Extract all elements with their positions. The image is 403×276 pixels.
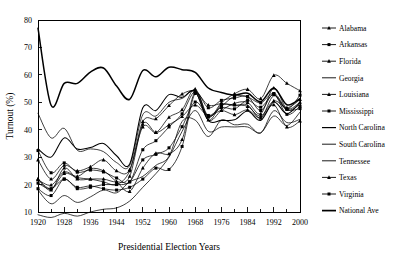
data-point-marker [63,178,66,181]
data-point-marker [37,182,40,185]
x-tick-label: 1936 [82,218,98,227]
data-point-marker [37,187,40,190]
legend-label-national-ave: National Ave [339,206,379,215]
data-point-marker [89,169,92,172]
legend-item-north-carolina[interactable]: North Carolina [322,123,385,132]
y-axis-title: Turnout (%) [5,93,16,140]
series-national-ave [38,28,300,107]
legend-label-georgia: Georgia [339,74,364,83]
data-point-marker [141,158,144,161]
legend-item-arkansas[interactable]: Arkansas [322,40,367,49]
legend-item-mississippi[interactable]: Mississippi [322,107,374,116]
legend-label-texas: Texas [339,173,357,182]
data-point-marker [50,171,53,174]
x-axis-ticks [38,207,300,212]
legend-item-south-carolina[interactable]: South Carolina [322,140,385,149]
y-tick-label: 30 [24,153,32,162]
x-axis-title: Presidential Election Years [118,242,220,252]
data-point-marker [154,117,158,121]
data-point-marker [181,145,184,148]
legend-item-virginia[interactable]: Virginia [322,190,364,199]
legend-item-national-ave[interactable]: National Ave [322,206,379,215]
data-point-marker [154,167,157,170]
y-tick-label: 60 [24,71,32,80]
data-point-marker [167,123,171,127]
chart-canvas: 1920192819361944195219601968197619841992… [0,0,403,276]
x-tick-label: 1944 [109,218,125,227]
data-point-marker [246,99,249,102]
y-tick-label: 70 [24,43,32,52]
data-point-marker [285,81,289,85]
y-tick-label: 40 [24,126,32,135]
y-axis-tick-labels: 1020304050607080 [24,16,32,217]
data-point-marker [233,107,236,110]
data-point-marker [167,115,171,119]
data-point-marker [259,109,262,112]
legend-item-texas[interactable]: Texas [322,173,357,182]
legend-label-virginia: Virginia [339,190,364,199]
data-point-marker [141,178,144,181]
data-point-marker [220,106,223,109]
data-point-marker [207,106,210,109]
turnout-line-chart: 1920192819361944195219601968197619841992… [0,0,403,276]
data-point-marker [206,103,210,107]
data-point-marker [76,187,79,190]
x-tick-label: 1920 [30,218,46,227]
data-point-marker [36,177,40,181]
x-tick-label: 1984 [240,218,256,227]
x-tick-label: 1968 [187,218,203,227]
data-point-marker [168,168,171,171]
series-virginia [37,93,302,197]
y-tick-label: 10 [24,208,32,217]
data-point-marker [102,187,105,190]
y-tick-label: 50 [24,98,32,107]
data-point-marker [328,193,331,196]
legend-item-alabama[interactable]: Alabama [322,24,367,33]
data-point-marker [259,106,262,109]
data-point-marker [115,176,118,179]
x-tick-label: 1928 [56,218,72,227]
y-tick-label: 80 [24,16,32,25]
x-tick-label: 1976 [213,218,229,227]
legend-label-florida: Florida [339,57,362,66]
legend-item-louisiana[interactable]: Louisiana [322,90,370,99]
data-point-marker [115,189,118,192]
data-point-marker [168,146,171,149]
x-tick-label: 2000 [292,218,308,227]
legend-label-louisiana: Louisiana [339,90,370,99]
data-point-marker [141,148,144,151]
data-point-marker [285,108,288,111]
legend-label-south-carolina: South Carolina [339,140,385,149]
data-point-marker [128,174,132,178]
data-point-marker [328,110,331,113]
x-tick-label: 1960 [161,218,177,227]
legend-label-tennessee: Tennessee [339,157,371,166]
data-point-marker [328,43,331,46]
x-tick-label: 1992 [266,218,282,227]
data-point-marker [154,153,157,156]
legend-item-tennessee[interactable]: Tennessee [322,157,371,166]
data-point-marker [207,114,210,117]
data-point-marker [89,186,92,189]
data-point-marker [115,183,118,186]
legend-label-north-carolina: North Carolina [339,123,385,132]
legend-label-mississippi: Mississippi [339,107,374,116]
data-point-marker [154,139,157,142]
data-point-marker [50,194,53,197]
legend-label-arkansas: Arkansas [339,40,367,49]
data-point-marker [298,89,302,93]
data-point-marker [128,186,131,189]
data-point-marker [194,101,197,104]
series-layer [36,28,302,217]
legend-item-georgia[interactable]: Georgia [322,74,364,83]
legend-label-alabama: Alabama [339,24,367,33]
data-point-marker [298,119,302,123]
legend-item-florida[interactable]: Florida [322,57,362,66]
data-point-marker [272,93,275,96]
data-point-marker [181,125,184,128]
data-point-marker [299,94,302,97]
data-point-marker [102,183,105,186]
data-point-marker [36,158,40,162]
y-tick-label: 20 [24,181,32,190]
x-axis-tick-labels: 1920192819361944195219601968197619841992… [30,218,308,227]
